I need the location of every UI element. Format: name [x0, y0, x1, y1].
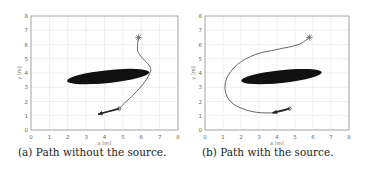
x-tick-label: 5 — [293, 134, 297, 140]
y-axis-label: y [m] — [16, 66, 23, 79]
y-tick-label: 3 — [199, 84, 203, 90]
y-tick-label: 0 — [25, 127, 29, 133]
y-tick-label: 2 — [199, 99, 203, 105]
x-tick-label: 0 — [203, 134, 207, 140]
y-tick-label: 0 — [199, 127, 203, 133]
x-axis-label: x [m] — [270, 140, 283, 145]
x-tick-label: 7 — [329, 134, 333, 140]
plot-b: 012345678012345678x [m]y [m] — [185, 0, 367, 145]
x-tick-label: 3 — [257, 134, 261, 140]
caption-b: (b) Path with the source. — [202, 146, 334, 158]
x-tick-label: 6 — [140, 134, 144, 140]
y-tick-label: 6 — [199, 42, 203, 48]
x-axis-label: x [m] — [98, 140, 111, 145]
y-tick-label: 5 — [199, 56, 203, 62]
y-tick-label: 1 — [199, 113, 203, 119]
y-tick-label: 1 — [25, 113, 29, 119]
y-axis-label: y [m] — [190, 66, 197, 79]
x-tick-label: 8 — [347, 134, 351, 140]
start-star-icon — [135, 34, 141, 40]
x-tick-label: 7 — [158, 134, 162, 140]
x-tick-label: 0 — [29, 134, 33, 140]
obstacle-ellipse — [241, 66, 323, 87]
start-star-icon — [306, 34, 312, 40]
y-tick-label: 6 — [25, 42, 29, 48]
y-tick-label: 4 — [25, 70, 29, 76]
plot-a: 012345678012345678x [m]y [m] — [0, 0, 185, 145]
x-tick-label: 5 — [121, 134, 125, 140]
y-tick-label: 8 — [25, 13, 29, 19]
x-tick-label: 2 — [239, 134, 243, 140]
caption-a: (a) Path without the source. — [18, 146, 166, 158]
y-tick-label: 3 — [25, 84, 29, 90]
y-tick-label: 4 — [199, 70, 203, 76]
x-tick-label: 1 — [48, 134, 52, 140]
figure-b: 012345678012345678x [m]y [m] — [185, 0, 367, 149]
x-tick-label: 3 — [84, 134, 88, 140]
figure-a: 012345678012345678x [m]y [m] — [0, 0, 185, 149]
x-tick-label: 2 — [66, 134, 70, 140]
y-tick-label: 2 — [25, 99, 29, 105]
obstacle-ellipse — [66, 66, 150, 87]
y-tick-label: 5 — [25, 56, 29, 62]
y-tick-label: 7 — [25, 27, 29, 33]
y-tick-label: 7 — [199, 27, 203, 33]
x-tick-label: 8 — [176, 134, 180, 140]
x-tick-label: 1 — [221, 134, 225, 140]
x-tick-label: 6 — [311, 134, 315, 140]
y-tick-label: 8 — [199, 13, 203, 19]
